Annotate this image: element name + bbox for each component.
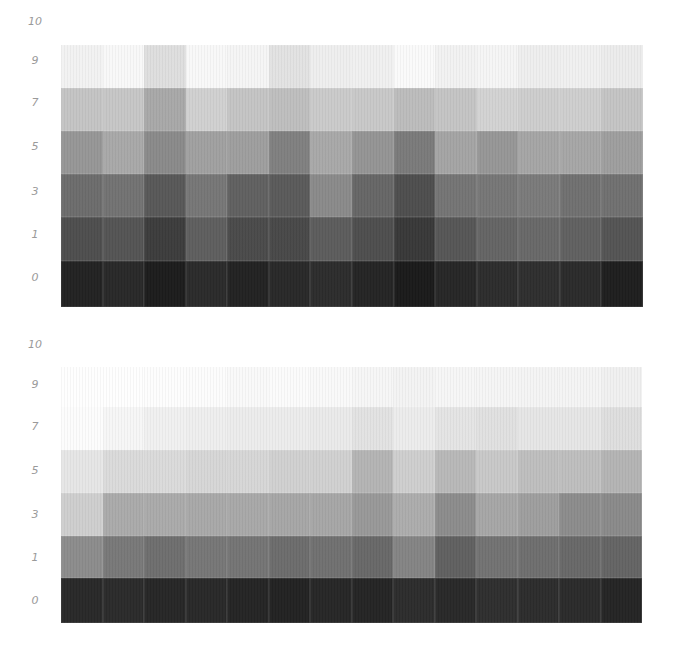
- value-swatch: [477, 217, 519, 261]
- value-swatch: [61, 578, 103, 623]
- value-swatch: [352, 45, 394, 88]
- y-tick-label: 0: [25, 595, 45, 607]
- value-swatch: [269, 367, 311, 407]
- value-swatch: [352, 407, 394, 450]
- value-swatch: [61, 131, 103, 174]
- value-swatch: [103, 174, 145, 217]
- swatch-grid-bottom: [61, 367, 642, 623]
- value-swatch: [269, 45, 311, 88]
- value-swatch: [435, 174, 477, 217]
- value-swatch: [435, 536, 477, 578]
- value-swatch: [227, 88, 269, 131]
- y-tick-label: 9: [25, 379, 45, 391]
- value-swatch: [144, 450, 186, 493]
- value-swatch: [144, 217, 186, 261]
- value-swatch: [186, 45, 228, 88]
- value-swatch: [269, 217, 311, 261]
- value-swatch: [435, 131, 477, 174]
- value-swatch: [518, 367, 560, 407]
- value-swatch: [227, 131, 269, 174]
- value-swatch: [435, 450, 477, 493]
- value-swatch: [352, 261, 394, 307]
- value-swatch: [310, 217, 352, 261]
- y-tick-label: 5: [25, 141, 45, 153]
- value-swatch: [559, 578, 601, 623]
- value-swatch: [601, 88, 643, 131]
- value-swatch: [601, 131, 643, 174]
- value-swatch: [227, 536, 269, 578]
- value-swatch: [559, 450, 601, 493]
- value-swatch: [186, 450, 228, 493]
- value-swatch: [144, 45, 186, 88]
- value-swatch: [227, 261, 269, 307]
- value-swatch: [518, 174, 560, 217]
- value-swatch: [393, 493, 435, 536]
- value-swatch: [186, 536, 228, 578]
- value-swatch: [476, 493, 518, 536]
- value-swatch: [144, 367, 186, 407]
- value-swatch: [477, 45, 519, 88]
- value-swatch: [103, 407, 145, 450]
- value-swatch: [227, 578, 269, 623]
- value-swatch: [227, 217, 269, 261]
- value-swatch: [352, 367, 394, 407]
- value-swatch: [227, 367, 269, 407]
- value-swatch: [61, 367, 103, 407]
- y-tick-label: 5: [25, 465, 45, 477]
- value-scale-panel-bottom: 10 9 7 5 3 1 0: [0, 324, 675, 649]
- value-swatch: [310, 261, 352, 307]
- y-tick-label: 9: [25, 55, 45, 67]
- value-swatch: [352, 493, 394, 536]
- value-swatch: [518, 493, 560, 536]
- value-swatch: [61, 407, 103, 450]
- value-swatch: [601, 261, 643, 307]
- value-swatch: [394, 174, 436, 217]
- value-swatch: [269, 493, 311, 536]
- value-swatch: [186, 174, 228, 217]
- value-scale-panel-top: 10 9 7 5 3 1 0: [0, 0, 675, 320]
- value-swatch: [144, 493, 186, 536]
- value-swatch: [61, 450, 103, 493]
- y-tick-label: 1: [25, 229, 45, 241]
- value-swatch: [476, 578, 518, 623]
- value-swatch: [61, 45, 103, 88]
- value-swatch: [560, 131, 602, 174]
- value-swatch: [560, 88, 602, 131]
- value-swatch: [518, 88, 560, 131]
- value-swatch: [601, 536, 643, 578]
- value-swatch: [269, 450, 311, 493]
- value-swatch: [144, 88, 186, 131]
- value-swatch: [518, 131, 560, 174]
- value-swatch: [144, 174, 186, 217]
- value-swatch: [393, 450, 435, 493]
- value-swatch: [310, 88, 352, 131]
- value-swatch: [61, 536, 103, 578]
- value-swatch: [559, 367, 601, 407]
- value-swatch: [559, 493, 601, 536]
- value-swatch: [559, 407, 601, 450]
- value-swatch: [518, 217, 560, 261]
- value-swatch: [394, 131, 436, 174]
- value-swatch: [393, 536, 435, 578]
- value-swatch: [477, 261, 519, 307]
- y-tick-label: 3: [25, 509, 45, 521]
- value-swatch: [186, 131, 228, 174]
- value-swatch: [601, 217, 643, 261]
- value-swatch: [394, 261, 436, 307]
- value-swatch: [269, 407, 311, 450]
- value-swatch: [601, 45, 643, 88]
- value-swatch: [310, 536, 352, 578]
- y-tick-label: 10: [25, 16, 45, 28]
- value-swatch: [144, 407, 186, 450]
- value-swatch: [477, 174, 519, 217]
- value-swatch: [269, 174, 311, 217]
- value-swatch: [435, 45, 477, 88]
- value-swatch: [61, 217, 103, 261]
- value-swatch: [144, 261, 186, 307]
- value-swatch: [269, 88, 311, 131]
- value-swatch: [476, 407, 518, 450]
- value-swatch: [435, 407, 477, 450]
- value-swatch: [103, 88, 145, 131]
- value-swatch: [352, 174, 394, 217]
- value-swatch: [227, 174, 269, 217]
